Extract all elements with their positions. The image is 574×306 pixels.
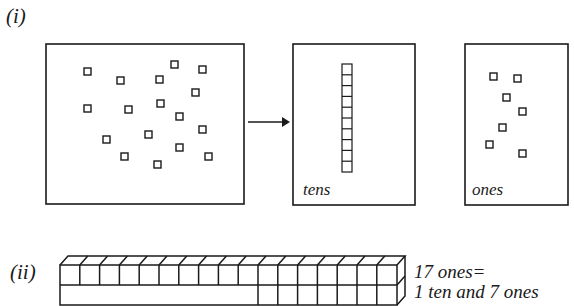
place-value-diagram: [0, 0, 574, 306]
scattered-unit-squares: [84, 61, 212, 168]
seventeen-cube-bar: [60, 256, 405, 305]
ones-unit-squares: [486, 73, 526, 157]
right-arrow-icon: [248, 117, 290, 127]
scatter-box: [46, 44, 244, 204]
tens-rod: [342, 64, 352, 172]
tens-box: [293, 44, 415, 205]
ones-box: [465, 44, 568, 205]
